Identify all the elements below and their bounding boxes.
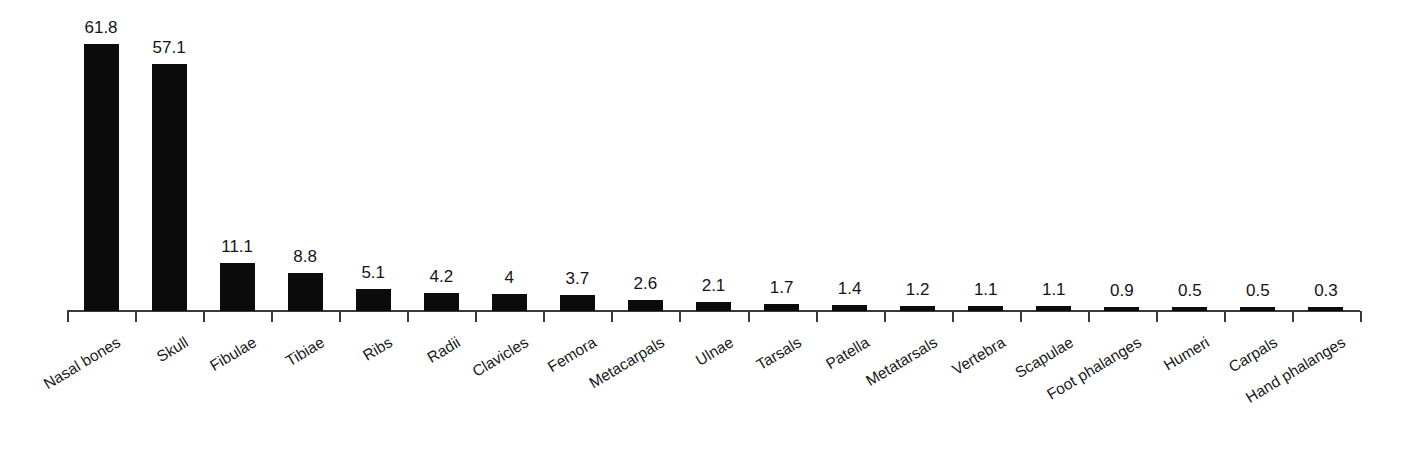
x-axis-tick: [1224, 311, 1226, 322]
category-label-text: Patella: [823, 334, 872, 372]
x-axis-tick: [952, 311, 954, 322]
x-axis-tick: [679, 311, 681, 322]
x-axis-tick: [475, 311, 477, 322]
category-label-text: Radii: [425, 334, 464, 366]
x-axis-tick: [407, 311, 409, 322]
x-axis-tick: [271, 311, 273, 322]
x-axis-tick: [816, 311, 818, 322]
bar: [356, 289, 391, 311]
category-label-text: Clavicles: [470, 334, 531, 380]
bar-value-label: 0.3: [1286, 282, 1366, 299]
x-axis-tick: [1292, 311, 1294, 322]
category-label-text: Ribs: [361, 334, 396, 364]
bar: [84, 44, 119, 311]
x-axis-tick: [1088, 311, 1090, 322]
bar: [1104, 307, 1139, 311]
x-axis-tick: [611, 311, 613, 322]
bar: [764, 304, 799, 311]
bar-chart: 61.857.111.18.85.14.243.72.62.11.71.41.2…: [0, 0, 1407, 453]
x-axis-tick: [1020, 311, 1022, 322]
bar-value-label: 8.8: [265, 248, 345, 265]
bar: [832, 305, 867, 311]
bar: [1036, 306, 1071, 311]
x-axis-tick: [1156, 311, 1158, 322]
bar: [424, 293, 459, 311]
x-axis-tick: [748, 311, 750, 322]
x-axis-tick: [67, 311, 69, 322]
x-axis-tick: [543, 311, 545, 322]
x-axis-tick: [884, 311, 886, 322]
bar: [560, 295, 595, 311]
bar-value-label: 57.1: [129, 39, 209, 56]
x-axis-tick: [339, 311, 341, 322]
plot-area: 61.857.111.18.85.14.243.72.62.11.71.41.2…: [0, 0, 1407, 453]
bar: [1240, 307, 1275, 311]
bar: [492, 294, 527, 311]
bar-value-label: 61.8: [61, 19, 141, 36]
bar: [1308, 307, 1343, 311]
bar: [696, 302, 731, 311]
bar: [288, 273, 323, 311]
bar: [152, 64, 187, 311]
category-label-text: Tarsals: [753, 334, 803, 373]
x-axis-tick: [203, 311, 205, 322]
category-label-text: Skull: [154, 334, 191, 365]
category-label-text: Vertebra: [949, 334, 1007, 378]
category-label-text: Femora: [545, 334, 599, 375]
x-axis-tick: [135, 311, 137, 322]
category-label-text: Fibulae: [207, 334, 259, 374]
bar: [220, 263, 255, 311]
x-axis-tick: [1360, 311, 1362, 322]
bar: [1172, 307, 1207, 311]
bar: [900, 306, 935, 311]
category-label-text: Humeri: [1161, 334, 1212, 373]
bar: [968, 306, 1003, 311]
category-label-text: Ulnae: [693, 334, 736, 369]
bar: [628, 300, 663, 311]
category-label-text: Tibiae: [283, 334, 327, 369]
category-label-text: Carpals: [1226, 334, 1280, 375]
